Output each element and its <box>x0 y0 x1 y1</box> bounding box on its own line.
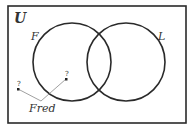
question-mark-outside: ? <box>17 80 21 88</box>
set-f-label: F <box>30 30 39 43</box>
question-mark-inside-f: ? <box>65 70 69 78</box>
set-l-label: L <box>157 30 165 43</box>
venn-diagram: U F L ? ? Fred <box>0 0 195 133</box>
fred-label: Fred <box>28 102 55 115</box>
universe-label: U <box>14 10 27 26</box>
point-inside-f-marker <box>65 78 68 81</box>
point-outside-marker <box>17 88 20 91</box>
